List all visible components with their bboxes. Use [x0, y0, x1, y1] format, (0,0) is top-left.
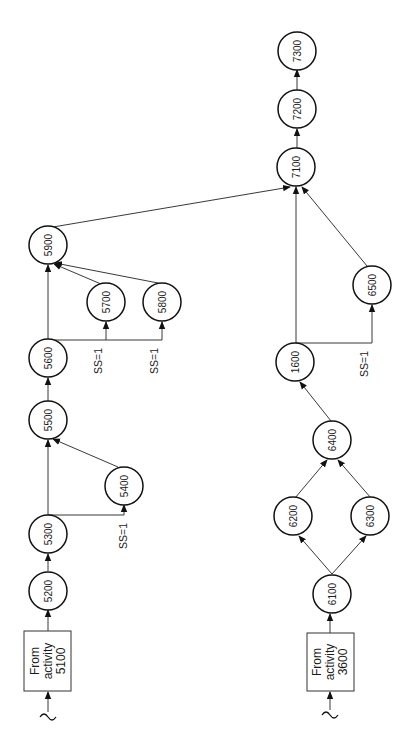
node-5500: 5500 — [29, 401, 67, 439]
node-label: 5500 — [43, 408, 54, 431]
source-box-line: activity — [323, 644, 337, 681]
node-6400: 6400 — [313, 421, 351, 459]
node-label: 7200 — [292, 97, 303, 120]
node-label: 6300 — [365, 504, 376, 527]
source-box-line: From — [28, 647, 42, 675]
ss-label-5600-5800: SS=1 — [148, 348, 160, 374]
node-label: 5200 — [43, 579, 54, 602]
node-label: 6500 — [367, 273, 378, 296]
ss-label-5600-5700: SS=1 — [92, 348, 104, 374]
node-5800: 5800 — [143, 283, 181, 321]
node-label: 7100 — [291, 155, 302, 178]
edge-5400-5500 — [53, 439, 118, 467]
edge-5800-5900 — [55, 263, 158, 283]
node-7200: 7200 — [278, 90, 316, 128]
edge-1600-6500 — [296, 305, 372, 343]
node-7100: 7100 — [277, 148, 315, 186]
node-label: 6200 — [288, 504, 299, 527]
node-5700: 5700 — [87, 283, 125, 321]
node-label: 5700 — [101, 290, 112, 313]
node-5200: 5200 — [29, 572, 67, 610]
node-5400: 5400 — [105, 467, 143, 505]
edge-6100-6300 — [332, 536, 366, 574]
node-label: 5300 — [43, 522, 54, 545]
node-label: 5800 — [157, 290, 168, 313]
edge-6200-6400 — [295, 460, 327, 498]
node-5900: 5900 — [29, 226, 67, 264]
node-label: 5900 — [43, 233, 54, 256]
source-box-5100: From activity 5100 — [24, 631, 71, 691]
source-box-line: 5100 — [54, 647, 68, 674]
node-5600: 5600 — [29, 339, 67, 377]
edge-6400-1600 — [300, 382, 331, 421]
source-box-3600: From activity 3600 — [307, 633, 354, 691]
ss-label-1600-6500: SS=1 — [358, 351, 370, 377]
node-label: 6100 — [327, 582, 338, 605]
tilde-break-icon — [322, 712, 338, 718]
node-1600: 1600 — [276, 343, 314, 381]
node-6500: 6500 — [353, 266, 391, 304]
edge-6300-6400 — [338, 460, 371, 498]
node-label: 6400 — [327, 428, 338, 451]
node-6300: 6300 — [351, 497, 389, 535]
edge-5600-5800 — [106, 322, 162, 340]
edge-5900-7100 — [53, 187, 290, 227]
edges-upper-chain — [40, 187, 290, 720]
source-box-line: activity — [41, 643, 55, 680]
node-label: 5600 — [43, 346, 54, 369]
edge-5600-5700 — [48, 322, 106, 340]
network-diagram: From activity 5100 From activity 3600 52… — [0, 0, 413, 749]
edge-6500-7100 — [302, 187, 367, 266]
tilde-break-icon — [40, 714, 56, 720]
node-6200: 6200 — [274, 497, 312, 535]
node-label: 5400 — [119, 474, 130, 497]
node-5300: 5300 — [29, 515, 67, 553]
source-box-line: 3600 — [336, 648, 350, 675]
node-6100: 6100 — [313, 575, 351, 613]
edge-5300-5400 — [48, 505, 124, 515]
node-label: 7300 — [292, 39, 303, 62]
node-7300: 7300 — [278, 32, 316, 70]
edge-6100-6200 — [299, 536, 332, 574]
node-label: 1600 — [290, 350, 301, 373]
ss-label-5300-5400: SS=1 — [117, 523, 129, 549]
source-box-line: From — [310, 648, 324, 676]
